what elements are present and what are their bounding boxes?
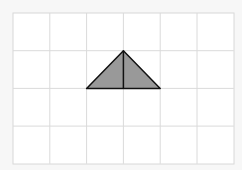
grid-diagram [0,0,242,170]
